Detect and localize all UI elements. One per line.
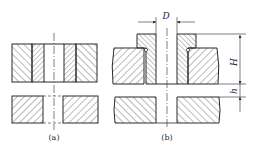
- bushing-wall-left-a: [32, 44, 44, 82]
- dim-label-H: H: [229, 58, 239, 67]
- panel-b: D H h (b): [112, 11, 246, 142]
- panel-a: (a): [12, 33, 98, 142]
- dim-label-D: D: [161, 11, 169, 21]
- plate-right-b: [188, 48, 219, 84]
- plate-left-b: [112, 48, 144, 84]
- workpiece-left-b: [114, 97, 156, 123]
- dim-label-h: h: [229, 88, 239, 94]
- plate-right-a: [76, 44, 97, 82]
- bushing-diagram: (a) D: [0, 0, 254, 153]
- caption-a: (a): [48, 133, 59, 142]
- workpiece-left-a: [12, 96, 43, 123]
- plate-left-a: [12, 44, 32, 82]
- caption-b: (b): [161, 133, 172, 142]
- bushing-wall-right-a: [64, 44, 76, 82]
- diagram-canvas: (a) D: [0, 0, 254, 153]
- workpiece-right-b: [177, 97, 220, 123]
- workpiece-right-a: [63, 96, 98, 123]
- dimension-D: D: [138, 11, 195, 34]
